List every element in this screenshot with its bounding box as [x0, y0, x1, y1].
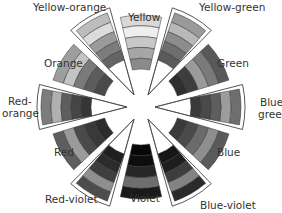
label-red-orange-1: Red-: [8, 95, 32, 107]
label-red: Red: [54, 146, 74, 158]
label-yellow: Yellow: [128, 11, 160, 23]
label-green: Green: [217, 57, 249, 69]
label-violet: Violet: [130, 192, 160, 204]
segment-red-orange: [37, 84, 127, 129]
label-blue-violet: Blue-violet: [200, 199, 256, 211]
segment-violet: [120, 144, 161, 199]
label-yellow-orange: Yellow-orange: [33, 1, 106, 13]
label-blue-green-2: green: [258, 108, 282, 120]
label-red-orange-2: orange: [2, 107, 39, 119]
label-red-violet: Red-violet: [45, 193, 98, 205]
segment-yellow: [120, 15, 161, 70]
label-blue-green-1: Blue-: [260, 96, 282, 108]
label-blue: Blue: [217, 146, 240, 158]
label-yellow-green: Yellow-green: [199, 1, 265, 13]
color-wheel: [0, 0, 282, 213]
segment-blue-green: [155, 84, 245, 129]
label-orange: Orange: [44, 57, 83, 69]
